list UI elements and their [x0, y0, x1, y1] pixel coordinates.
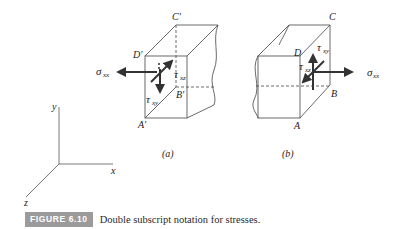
vertex-b: B [331, 88, 337, 99]
svg-text:τ: τ [146, 93, 151, 105]
figure-caption: FIGURE 6.10 Double subscript notation fo… [0, 211, 260, 227]
vertex-d: D [293, 47, 302, 58]
svg-text:xy: xy [151, 99, 159, 107]
svg-text:τ: τ [317, 41, 322, 53]
x-axis-label: x [110, 165, 116, 176]
svg-text:σ: σ [96, 65, 102, 77]
coordinate-axes [26, 107, 113, 197]
figure-caption-text: Double subscript notation for stresses. [100, 214, 261, 225]
svg-text:xx: xx [102, 71, 110, 79]
svg-text:τ: τ [174, 68, 179, 80]
vertex-a-prime: A′ [137, 119, 147, 130]
vertex-d-prime: D′ [132, 49, 143, 60]
vertex-c: C [329, 11, 336, 22]
y-axis-label: y [51, 101, 57, 112]
z-axis [26, 164, 59, 197]
svg-text:xz: xz [179, 74, 186, 82]
sigma-xx-label-b: σ xx [367, 66, 380, 80]
stress-notation-figure: y x z C′ D′ B′ A′ σ xx τ xy τ xz (a) [0, 0, 398, 229]
vertex-b-prime: B′ [176, 89, 185, 100]
svg-text:xz: xz [304, 66, 311, 74]
vertex-a: A [293, 120, 301, 131]
tau-xy-label-b: τ xy [317, 41, 330, 55]
tau-xz-label-b: τ xz [299, 60, 311, 74]
sigma-xx-label-a: σ xx [96, 65, 110, 79]
svg-text:xx: xx [372, 72, 380, 80]
figure-number-tag: FIGURE 6.10 [25, 212, 93, 227]
vertex-c-prime: C′ [172, 11, 182, 22]
tau-xy-label-a: τ xy [146, 93, 159, 107]
svg-text:xy: xy [322, 47, 330, 55]
subfigure-b-label: (b) [282, 148, 294, 160]
subfigure-a-label: (a) [162, 148, 174, 160]
tau-xz-label-a: τ xz [174, 68, 186, 82]
z-axis-label: z [23, 197, 28, 208]
svg-text:τ: τ [299, 60, 304, 72]
